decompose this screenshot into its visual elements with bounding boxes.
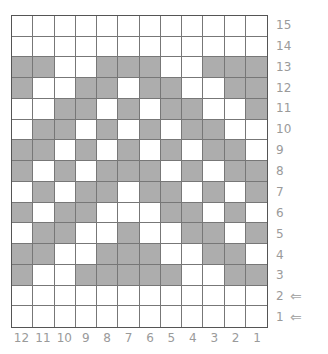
chart-cell [225,37,246,58]
chart-cell [161,265,182,286]
row-number-label: 5 [276,224,284,245]
chart-cell [97,182,118,203]
chart-cell [203,99,224,120]
chart-cell [161,57,182,78]
chart-cell [76,265,97,286]
chart-cell [246,161,267,182]
chart-cell [118,223,139,244]
chart-cell [225,140,246,161]
chart-cell [118,161,139,182]
chart-cell [12,286,33,307]
chart-cell [33,286,54,307]
chart-cell [161,120,182,141]
chart-cell [182,16,203,37]
left-arrow-icon: ⇐ [290,307,302,328]
row-number-label: 15 [276,15,291,36]
chart-cell [203,120,224,141]
chart-cell [140,306,161,327]
chart-cell [33,223,54,244]
column-number-label: 7 [118,331,139,345]
chart-cell [97,120,118,141]
chart-cell [246,99,267,120]
row-number-label: 11 [276,98,291,119]
chart-cell [140,37,161,58]
chart-cell [225,16,246,37]
chart-cell [161,78,182,99]
chart-cell [12,265,33,286]
row-number-label: 12 [276,78,291,99]
chart-cell [33,161,54,182]
chart-cell [76,140,97,161]
chart-cell [76,203,97,224]
chart-cell [76,78,97,99]
chart-cell [161,140,182,161]
chart-cell [182,37,203,58]
chart-cell [55,203,76,224]
chart-cell [161,306,182,327]
chart-cell [182,306,203,327]
chart-cell [246,244,267,265]
chart-cell [182,99,203,120]
chart-cell [182,223,203,244]
chart-cell [12,99,33,120]
chart-cell [246,203,267,224]
chart-cell [55,140,76,161]
column-number-label: 5 [161,331,182,345]
chart-cell [55,16,76,37]
row-number-label: 10 [276,119,291,140]
chart-cell [182,203,203,224]
chart-cell [161,16,182,37]
chart-cell [97,223,118,244]
chart-cell [203,244,224,265]
chart-cell [118,57,139,78]
chart-cell [203,161,224,182]
chart-cell [140,57,161,78]
chart-cell [246,140,267,161]
chart-cell [97,244,118,265]
chart-cell [55,286,76,307]
column-number-label: 2 [225,331,246,345]
column-number-label: 12 [11,331,32,345]
chart-cell [182,140,203,161]
column-number-label: 3 [204,331,225,345]
chart-cell [76,286,97,307]
chart-cell [33,203,54,224]
chart-cell [55,37,76,58]
row-number-label: 8 [276,161,284,182]
chart-cell [140,99,161,120]
chart-cell [140,265,161,286]
chart-cell [33,244,54,265]
chart-cell [118,244,139,265]
row-number-label: 7 [276,182,284,203]
chart-cell [161,223,182,244]
chart-cell [97,16,118,37]
chart-cell [203,140,224,161]
chart-cell [225,223,246,244]
chart-cell [97,99,118,120]
chart-cell [33,78,54,99]
chart-cell [225,306,246,327]
chart-cell [161,37,182,58]
chart-cell [225,57,246,78]
chart-cell [225,182,246,203]
chart-cell [55,161,76,182]
chart-cell [12,57,33,78]
chart-cell [246,120,267,141]
chart-cell [76,161,97,182]
chart-cell [118,78,139,99]
chart-cell [118,140,139,161]
chart-cell [76,223,97,244]
chart-cell [12,223,33,244]
chart-cell [55,120,76,141]
chart-cell [76,16,97,37]
chart-cell [55,306,76,327]
chart-cell [97,78,118,99]
chart-cell [246,223,267,244]
chart-cell [140,161,161,182]
chart-cell [140,286,161,307]
chart-cell [12,16,33,37]
chart-cell [12,182,33,203]
left-arrow-icon: ⇐ [290,286,302,307]
chart-cell [118,120,139,141]
chart-cell [55,78,76,99]
